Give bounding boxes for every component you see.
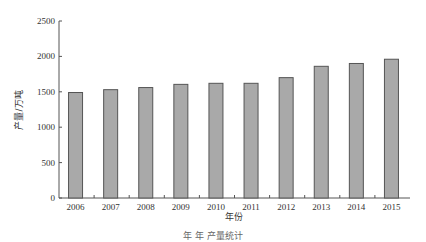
bar-2008 [139, 88, 153, 198]
x-tick-label: 2008 [137, 202, 156, 212]
bar-2013 [314, 66, 328, 198]
x-tick-label: 2015 [382, 202, 401, 212]
bar-2012 [279, 78, 293, 198]
y-tick-label: 0 [51, 193, 56, 203]
x-tick-label: 2010 [207, 202, 226, 212]
y-tick-label: 500 [42, 158, 56, 168]
x-tick-label: 2014 [347, 202, 366, 212]
y-tick-label: 1500 [37, 87, 56, 97]
x-tick-label: 2006 [67, 202, 86, 212]
x-tick-label: 2013 [312, 202, 331, 212]
y-axis: 05001000150020002500 [37, 16, 62, 203]
x-tick-label: 2012 [277, 202, 295, 212]
figure-caption: 年 年 产量统计 [0, 229, 426, 242]
bar-2006 [69, 93, 83, 198]
x-tick-label: 2007 [102, 202, 121, 212]
bar-2010 [209, 83, 223, 198]
bars [69, 59, 399, 198]
y-axis-title: 产量/万吨 [13, 90, 24, 129]
bar-2007 [104, 90, 118, 198]
bar-2009 [174, 84, 188, 198]
x-tick-label: 2009 [172, 202, 191, 212]
bar-2015 [384, 59, 398, 198]
x-axis-title: 年份 [225, 211, 243, 222]
y-tick-label: 2500 [37, 16, 56, 26]
bar-2014 [349, 63, 363, 198]
y-tick-label: 1000 [37, 122, 56, 132]
y-tick-label: 2000 [37, 51, 56, 61]
bar-2011 [244, 83, 258, 198]
x-tick-label: 2011 [242, 202, 260, 212]
